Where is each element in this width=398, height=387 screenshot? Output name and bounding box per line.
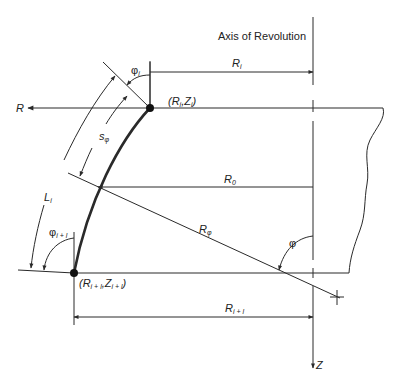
point-i1-sub1: i + l — [91, 283, 102, 290]
l-i-label: Li — [44, 192, 52, 204]
ri-label: Ri — [232, 58, 242, 70]
r-phi-label: Rφ — [199, 224, 212, 236]
ri1-label: Ri + l — [225, 303, 244, 315]
ri-sub: i — [240, 63, 242, 70]
l-i-arc-lower — [31, 205, 44, 268]
node-point-i1 — [70, 269, 78, 277]
phi-i1-arc — [44, 238, 74, 270]
s-phi-arc-upper — [106, 96, 127, 124]
phi-i1-label: φi + l — [49, 227, 67, 239]
ri1-main: R — [225, 302, 233, 314]
point-i-open: (R — [168, 95, 180, 107]
l-i-arc-upper — [64, 76, 115, 160]
break-line — [349, 108, 384, 273]
axis-of-revolution-label: Axis of Revolution — [218, 31, 306, 42]
point-i1-label: (Ri + l,Zi + l) — [79, 278, 126, 290]
phi-i-sub: i — [138, 70, 140, 77]
normal-top — [103, 62, 150, 108]
r0-label: R0 — [224, 174, 236, 186]
point-i-mid: ,Z — [181, 95, 191, 107]
node-point-i — [146, 104, 154, 112]
r0-main: R — [224, 173, 232, 185]
point-i1-sub2: i + l — [111, 283, 122, 290]
point-i-close: ) — [193, 95, 197, 107]
shell-element-diagram — [0, 0, 398, 387]
z-axis-label: Z — [316, 360, 323, 371]
bottom-line — [18, 270, 74, 273]
r0-sub: 0 — [232, 179, 236, 186]
r-phi-main: R — [199, 223, 207, 235]
point-i1-open: (R — [79, 277, 91, 289]
r-axis-label: R — [16, 103, 24, 114]
point-i1-close: ) — [123, 277, 127, 289]
s-phi-label: sφ — [99, 131, 109, 143]
ri1-sub: i + l — [233, 308, 244, 315]
phi-i-label: φi — [131, 65, 140, 77]
meridian-curve — [74, 108, 150, 273]
s-phi-sub: φ — [105, 136, 110, 143]
ri-main: R — [232, 57, 240, 69]
s-phi-arc-lower — [80, 148, 92, 176]
point-i-label: (Ri,Zi) — [168, 96, 196, 108]
phi-label: φ — [289, 238, 296, 249]
l-i-sub: i — [50, 197, 52, 204]
r-phi-sub: φ — [207, 229, 212, 236]
phi-i1-sub: i + l — [56, 232, 67, 239]
